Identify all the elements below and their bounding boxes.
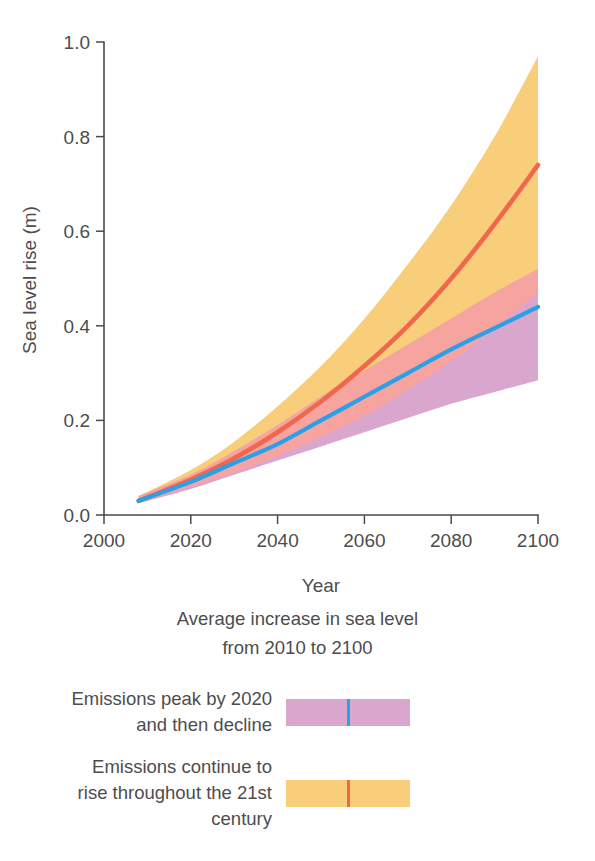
legend-label-line-3: century bbox=[18, 806, 272, 832]
legend-label-line-1: Emissions peak by 2020 bbox=[18, 686, 272, 712]
legend-entry-list: Emissions peak by 2020 and then decline … bbox=[0, 686, 595, 832]
x-tick-label: 2080 bbox=[430, 530, 472, 551]
y-tick-label: 0.0 bbox=[64, 505, 90, 526]
x-axis-title: Year bbox=[302, 575, 341, 596]
x-tick-label: 2060 bbox=[343, 530, 385, 551]
y-tick-label: 0.8 bbox=[64, 127, 90, 148]
x-axis-ticks: 200020202040206020802100 bbox=[83, 515, 559, 551]
uncertainty-bands bbox=[139, 56, 538, 503]
clipped-caption-strip bbox=[0, 852, 595, 861]
chart-svg: 0.00.20.40.60.81.0 200020202040206020802… bbox=[0, 0, 595, 600]
x-tick-label: 2100 bbox=[517, 530, 559, 551]
x-tick-label: 2020 bbox=[170, 530, 212, 551]
y-tick-label: 0.2 bbox=[64, 410, 90, 431]
chart-legend: Average increase in sea level from 2010 … bbox=[0, 604, 595, 848]
legend-label-line-2: rise throughout the 21st bbox=[18, 780, 272, 806]
legend-entry-emissions-rise[interactable]: Emissions continue to rise throughout th… bbox=[18, 754, 577, 832]
legend-swatch-blue-line bbox=[347, 699, 350, 726]
legend-swatch-yellow-band bbox=[286, 780, 410, 807]
sea-level-rise-figure: 0.00.20.40.60.81.0 200020202040206020802… bbox=[0, 0, 595, 861]
legend-title-line-1: Average increase in sea level bbox=[60, 604, 535, 633]
x-tick-label: 2040 bbox=[256, 530, 298, 551]
legend-title: Average increase in sea level from 2010 … bbox=[0, 604, 595, 662]
legend-title-line-2: from 2010 to 2100 bbox=[60, 633, 535, 662]
y-axis-title: Sea level rise (m) bbox=[19, 206, 40, 354]
y-axis-ticks: 0.00.20.40.60.81.0 bbox=[64, 32, 104, 526]
legend-entry-emissions-peak[interactable]: Emissions peak by 2020 and then decline bbox=[18, 686, 577, 738]
y-tick-label: 0.6 bbox=[64, 221, 90, 242]
legend-entry-label: Emissions continue to rise throughout th… bbox=[18, 754, 286, 832]
legend-swatch-purple-band bbox=[286, 699, 410, 726]
chart-plot-area: 0.00.20.40.60.81.0 200020202040206020802… bbox=[0, 0, 595, 600]
legend-label-line-2: and then decline bbox=[18, 712, 272, 738]
y-tick-label: 0.4 bbox=[64, 316, 91, 337]
legend-label-line-1: Emissions continue to bbox=[18, 754, 272, 780]
legend-entry-label: Emissions peak by 2020 and then decline bbox=[18, 686, 286, 738]
legend-swatch-red-line bbox=[347, 780, 350, 807]
y-tick-label: 1.0 bbox=[64, 32, 90, 53]
x-tick-label: 2000 bbox=[83, 530, 125, 551]
